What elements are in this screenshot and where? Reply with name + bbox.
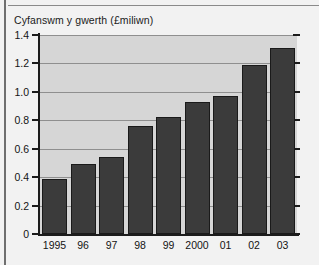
y-axis-tick-label: 0.2: [0, 200, 29, 212]
bar: [99, 157, 124, 234]
x-axis-line: [38, 234, 299, 236]
page-top-rule: [8, 5, 319, 6]
bar-series: [40, 35, 297, 234]
x-axis-tick-label: 02: [242, 239, 267, 251]
bar-slot: [42, 35, 67, 234]
x-axis-tick-label: 99: [156, 239, 181, 251]
bar-slot: [71, 35, 96, 234]
y-axis-tick-label: 0: [0, 228, 29, 240]
x-axis-tick-label: 98: [128, 239, 153, 251]
y-axis-tick-label: 1.0: [0, 86, 29, 98]
x-axis-tick-label: 97: [99, 239, 124, 251]
bar: [156, 117, 181, 234]
y-axis-tick-label: 0.4: [0, 171, 29, 183]
y-axis-tick-label: 0.8: [0, 114, 29, 126]
bar: [270, 48, 295, 234]
bar-slot: [185, 35, 210, 234]
bar-chart-figure: Cyfanswm y gwerth (£miliwn) 00.20.40.60.…: [0, 0, 319, 265]
x-axis-tick-label: 03: [270, 239, 295, 251]
x-axis-labels: 1995969798992000010203: [40, 239, 297, 251]
y-axis-tick-label: 1.4: [0, 29, 29, 41]
bar-slot: [156, 35, 181, 234]
x-axis-tick-label: 96: [71, 239, 96, 251]
bar-slot: [128, 35, 153, 234]
bar: [42, 179, 67, 234]
bar: [71, 164, 96, 234]
x-axis-tick-label: 01: [213, 239, 238, 251]
bar-slot: [99, 35, 124, 234]
y-axis-tick-label: 1.2: [0, 57, 29, 69]
bar: [185, 102, 210, 234]
y-axis-tick-label: 0.6: [0, 143, 29, 155]
x-axis-tick-label: 2000: [185, 239, 210, 251]
bar-slot: [270, 35, 295, 234]
bar: [128, 126, 153, 234]
chart-title: Cyfanswm y gwerth (£miliwn): [14, 14, 153, 26]
bar-slot: [242, 35, 267, 234]
bar-slot: [213, 35, 238, 234]
bar: [213, 96, 238, 234]
x-axis-tick-label: 1995: [42, 239, 67, 251]
bar: [242, 65, 267, 234]
